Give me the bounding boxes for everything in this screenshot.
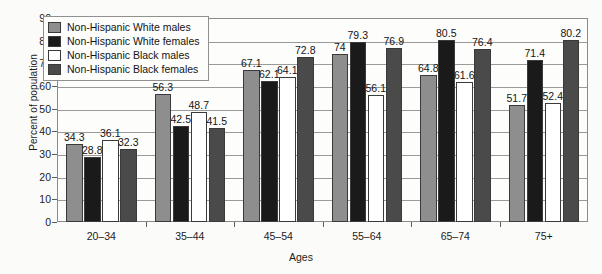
bar bbox=[120, 149, 137, 222]
legend-swatch bbox=[48, 64, 61, 75]
bar bbox=[243, 70, 260, 222]
bar-value-label: 34.3 bbox=[64, 131, 84, 143]
bar-value-label: 80.2 bbox=[561, 27, 581, 39]
bar-value-label: 79.3 bbox=[348, 29, 368, 41]
bar bbox=[261, 81, 278, 222]
bar bbox=[527, 60, 544, 222]
bar-value-label: 71.4 bbox=[525, 47, 545, 59]
bar-value-label: 80.5 bbox=[436, 27, 456, 39]
bar-value-label: 76.9 bbox=[384, 35, 404, 47]
x-tick-label: 45–54 bbox=[264, 230, 293, 242]
x-tick-label: 75+ bbox=[535, 230, 553, 242]
x-tick-label: 55–64 bbox=[352, 230, 381, 242]
bar bbox=[66, 144, 83, 222]
bar-value-label: 48.7 bbox=[189, 99, 209, 111]
bar bbox=[563, 40, 580, 222]
bar bbox=[332, 54, 349, 222]
bar bbox=[456, 82, 473, 222]
legend-label: Non-Hispanic Black males bbox=[67, 49, 190, 61]
bar-chart: Percent of population 010203040506070809… bbox=[0, 0, 602, 274]
legend-swatch bbox=[48, 36, 61, 47]
legend-item: Non-Hispanic White males bbox=[48, 20, 203, 34]
bar bbox=[350, 42, 367, 222]
bar-value-label: 41.5 bbox=[207, 115, 227, 127]
legend-label: Non-Hispanic White females bbox=[67, 35, 199, 47]
bar bbox=[368, 95, 385, 222]
bar bbox=[173, 126, 190, 222]
x-tick-mark bbox=[500, 222, 501, 227]
y-tick-label: 20 bbox=[25, 171, 51, 183]
bar bbox=[84, 157, 101, 222]
legend-item: Non-Hispanic White females bbox=[48, 34, 203, 48]
bar bbox=[297, 57, 314, 222]
bar-value-label: 32.3 bbox=[118, 136, 138, 148]
bar bbox=[420, 75, 437, 222]
bar-value-label: 64.1 bbox=[277, 64, 297, 76]
bar-value-label: 76.4 bbox=[472, 36, 492, 48]
x-tick-mark bbox=[323, 222, 324, 227]
y-tick-mark bbox=[52, 222, 57, 223]
y-tick-label: 30 bbox=[25, 148, 51, 160]
y-tick-label: 10 bbox=[25, 193, 51, 205]
x-tick-mark bbox=[411, 222, 412, 227]
bar-value-label: 72.8 bbox=[295, 44, 315, 56]
x-tick-mark bbox=[234, 222, 235, 227]
bar bbox=[474, 49, 491, 222]
bar-value-label: 52.4 bbox=[543, 90, 563, 102]
bar bbox=[102, 140, 119, 222]
bar bbox=[155, 94, 172, 222]
y-tick-label: 40 bbox=[25, 125, 51, 137]
bar-value-label: 64.8 bbox=[418, 62, 438, 74]
y-tick-label: 60 bbox=[25, 80, 51, 92]
bar bbox=[209, 128, 226, 222]
bar-value-label: 28.8 bbox=[82, 144, 102, 156]
bar-value-label: 56.3 bbox=[153, 81, 173, 93]
bar bbox=[279, 77, 296, 222]
bar bbox=[545, 103, 562, 222]
chart-legend: Non-Hispanic White malesNon-Hispanic Whi… bbox=[43, 16, 209, 81]
y-tick-label: 50 bbox=[25, 103, 51, 115]
y-tick-label: 0 bbox=[25, 216, 51, 228]
x-tick-mark bbox=[146, 222, 147, 227]
legend-swatch bbox=[48, 50, 61, 61]
x-axis-title: Ages bbox=[0, 251, 602, 263]
bar-value-label: 56.1 bbox=[366, 82, 386, 94]
legend-label: Non-Hispanic Black females bbox=[67, 63, 198, 75]
bar-value-label: 51.7 bbox=[507, 92, 527, 104]
bar-value-label: 61.6 bbox=[454, 69, 474, 81]
legend-label: Non-Hispanic White males bbox=[67, 21, 191, 33]
bar bbox=[438, 40, 455, 222]
x-tick-label: 65–74 bbox=[441, 230, 470, 242]
bar bbox=[191, 112, 208, 222]
bar-value-label: 67.1 bbox=[241, 57, 261, 69]
x-tick-label: 35–44 bbox=[175, 230, 204, 242]
legend-item: Non-Hispanic Black males bbox=[48, 48, 203, 62]
bar-value-label: 74 bbox=[334, 41, 346, 53]
bar-value-label: 42.5 bbox=[171, 113, 191, 125]
x-tick-label: 20–34 bbox=[87, 230, 116, 242]
legend-swatch bbox=[48, 22, 61, 33]
bar bbox=[509, 105, 526, 222]
legend-item: Non-Hispanic Black females bbox=[48, 62, 203, 76]
bar bbox=[386, 48, 403, 222]
